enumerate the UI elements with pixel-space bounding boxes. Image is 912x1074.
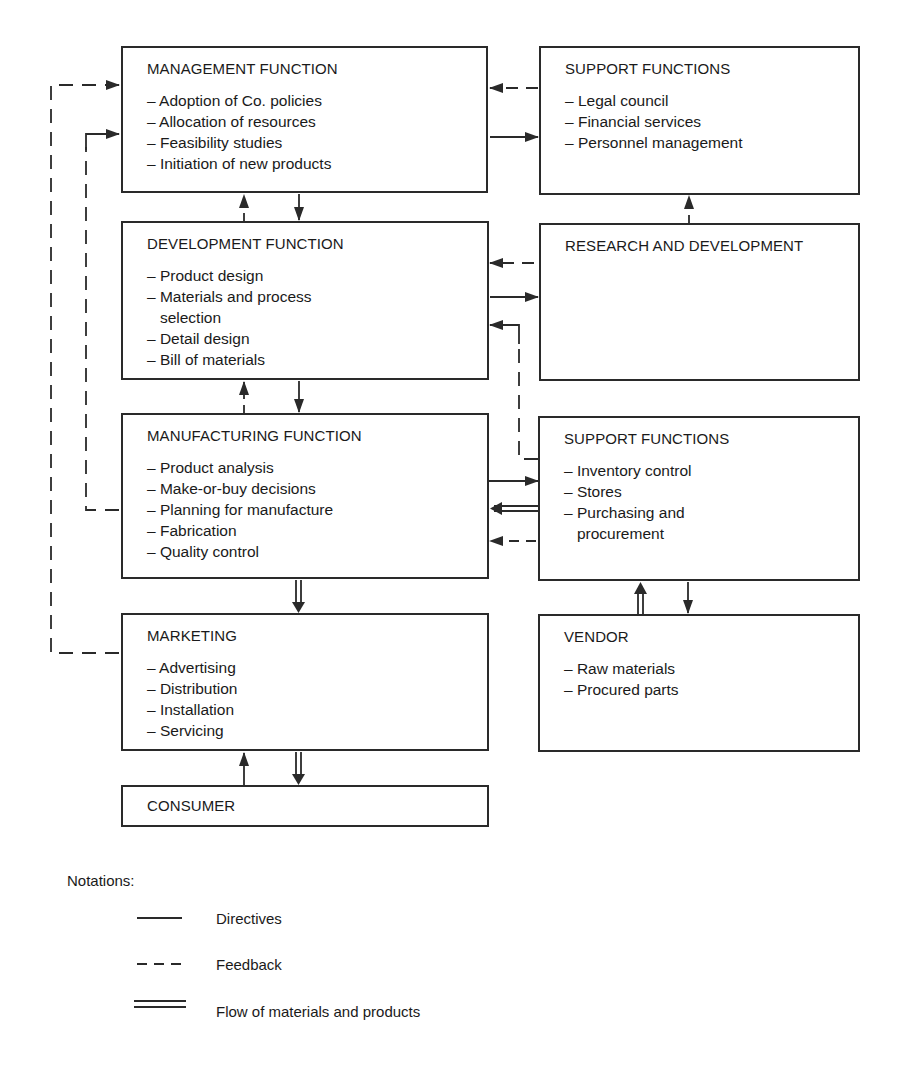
list-item: – Adoption of Co. policies xyxy=(147,90,331,111)
box-items: – Advertising – Distribution – Installat… xyxy=(147,657,237,741)
box-items: – Raw materials – Procured parts xyxy=(564,658,679,700)
box-title: SUPPORT FUNCTIONS xyxy=(564,430,729,447)
list-item: – Quality control xyxy=(147,541,333,562)
legend-label-feedback: Feedback xyxy=(216,956,282,973)
management-function-box: MANAGEMENT FUNCTION – Adoption of Co. po… xyxy=(121,46,488,193)
list-item: – Installation xyxy=(147,699,237,720)
manufacturing-function-box: MANUFACTURING FUNCTION – Product analysi… xyxy=(121,413,489,579)
box-title: VENDOR xyxy=(564,628,629,645)
list-item: – Purchasing and xyxy=(564,502,692,523)
box-title: MANAGEMENT FUNCTION xyxy=(147,60,338,77)
legend-label-flow: Flow of materials and products xyxy=(216,1003,420,1020)
support-functions-mid-box: SUPPORT FUNCTIONS – Inventory control – … xyxy=(538,416,860,581)
list-item: – Make-or-buy decisions xyxy=(147,478,333,499)
legend-double-line xyxy=(134,1001,186,1007)
list-item: – Product analysis xyxy=(147,457,333,478)
legend-label-directives: Directives xyxy=(216,910,282,927)
box-items: – Product design – Materials and process… xyxy=(147,265,312,370)
box-items: – Product analysis – Make-or-buy decisio… xyxy=(147,457,333,562)
box-title: MANUFACTURING FUNCTION xyxy=(147,427,362,444)
list-item: selection xyxy=(147,307,312,328)
list-item: – Servicing xyxy=(147,720,237,741)
list-item: – Allocation of resources xyxy=(147,111,331,132)
list-item: – Planning for manufacture xyxy=(147,499,333,520)
box-title: CONSUMER xyxy=(147,797,235,814)
list-item: – Inventory control xyxy=(564,460,692,481)
list-item: – Distribution xyxy=(147,678,237,699)
legend-title: Notations: xyxy=(67,872,135,889)
box-title: DEVELOPMENT FUNCTION xyxy=(147,235,344,252)
list-item: – Advertising xyxy=(147,657,237,678)
list-item: – Bill of materials xyxy=(147,349,312,370)
box-title: RESEARCH AND DEVELOPMENT xyxy=(565,237,803,254)
list-item: – Procured parts xyxy=(564,679,679,700)
list-item: – Fabrication xyxy=(147,520,333,541)
list-item: procurement xyxy=(564,523,692,544)
box-items: – Legal council – Financial services – P… xyxy=(565,90,743,153)
feedback-marketing-to-management xyxy=(51,85,119,653)
list-item: – Initiation of new products xyxy=(147,153,331,174)
feedback-support-to-dev xyxy=(519,340,538,459)
list-item: – Feasibility studies xyxy=(147,132,331,153)
marketing-box: MARKETING – Advertising – Distribution –… xyxy=(121,613,489,751)
support-functions-top-box: SUPPORT FUNCTIONS – Legal council – Fina… xyxy=(539,46,860,195)
list-item: – Legal council xyxy=(565,90,743,111)
list-item: – Raw materials xyxy=(564,658,679,679)
vendor-box: VENDOR – Raw materials – Procured parts xyxy=(538,614,860,752)
box-title: MARKETING xyxy=(147,627,237,644)
list-item: – Detail design xyxy=(147,328,312,349)
list-item: – Materials and process xyxy=(147,286,312,307)
box-title: SUPPORT FUNCTIONS xyxy=(565,60,730,77)
box-items: – Adoption of Co. policies – Allocation … xyxy=(147,90,331,174)
list-item: – Personnel management xyxy=(565,132,743,153)
feedback-manufacturing-to-management xyxy=(86,147,119,510)
list-item: – Financial services xyxy=(565,111,743,132)
list-item: – Product design xyxy=(147,265,312,286)
list-item: – Stores xyxy=(564,481,692,502)
consumer-box: CONSUMER xyxy=(121,785,489,827)
development-function-box: DEVELOPMENT FUNCTION – Product design – … xyxy=(121,221,489,380)
box-items: – Inventory control – Stores – Purchasin… xyxy=(564,460,692,544)
research-and-development-box: RESEARCH AND DEVELOPMENT xyxy=(539,223,860,381)
